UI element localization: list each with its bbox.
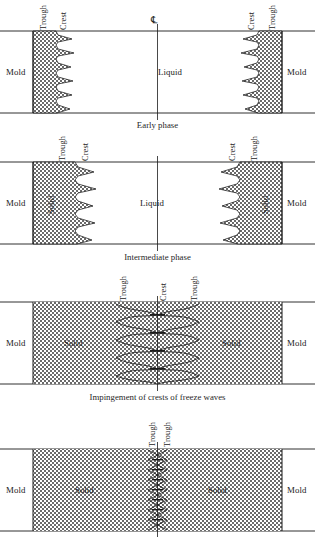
panel-final-phase-graphic [0,414,315,537]
solidification-figure: ℄ Mold Mold Liquid Trough Crest Crest Tr… [0,0,315,537]
callout-left-crest: Crest [59,12,68,30]
label-right-mold: Mold [287,199,306,208]
label-right-solid: Solid [261,196,270,214]
right-solid-shell [241,31,282,113]
panel-final-phase: Mold Mold Solid Solid Trough Trough [0,414,315,537]
panel-impingement-phase: Mold Mold Solid Solid Trough Crest Troug… [0,276,315,406]
label-left-mold: Mold [6,68,25,77]
callout-left-trough: Trough [148,422,157,447]
caption-intermediate-phase: Intermediate phase [0,252,315,262]
callout-left-trough: Trough [39,5,48,30]
label-liquid: Liquid [140,199,164,208]
right-solid-shell [219,162,282,244]
callout-right-trough: Trough [190,276,199,301]
panel-impingement-phase-graphic [0,276,315,406]
callout-left-trough: Trough [58,136,67,161]
callout-right-trough: Trough [163,422,172,447]
callout-right-trough: Trough [250,136,259,161]
label-right-solid: Solid [222,339,241,348]
label-right-mold: Mold [287,339,306,348]
panel-intermediate-phase: Mold Mold Liquid Solid Solid Trough Cres… [0,138,315,268]
panel-early-phase: ℄ Mold Mold Liquid Trough Crest Crest Tr… [0,0,315,130]
label-left-solid: Solid [64,339,83,348]
label-left-solid: Solid [47,196,56,214]
left-solid-shell [33,162,96,244]
callout-left-crest: Crest [81,143,90,161]
label-right-mold: Mold [287,68,306,77]
centerline-symbol: ℄ [151,14,157,25]
left-solid-shell [33,31,74,113]
label-left-mold: Mold [6,339,25,348]
caption-early-phase: Early phase [0,120,315,130]
label-left-mold: Mold [6,199,25,208]
callout-right-crest: Crest [228,143,237,161]
callout-center-crest: Crest [159,283,168,301]
label-right-mold: Mold [287,486,306,495]
callout-left-trough: Trough [119,276,128,301]
caption-impingement-phase: Impingement of crests of freeze waves [0,392,315,402]
label-liquid: Liquid [158,68,182,77]
callout-right-trough: Trough [268,5,277,30]
label-left-solid: Solid [75,486,94,495]
callout-right-crest: Crest [247,12,256,30]
label-right-solid: Solid [208,486,227,495]
label-left-mold: Mold [6,486,25,495]
